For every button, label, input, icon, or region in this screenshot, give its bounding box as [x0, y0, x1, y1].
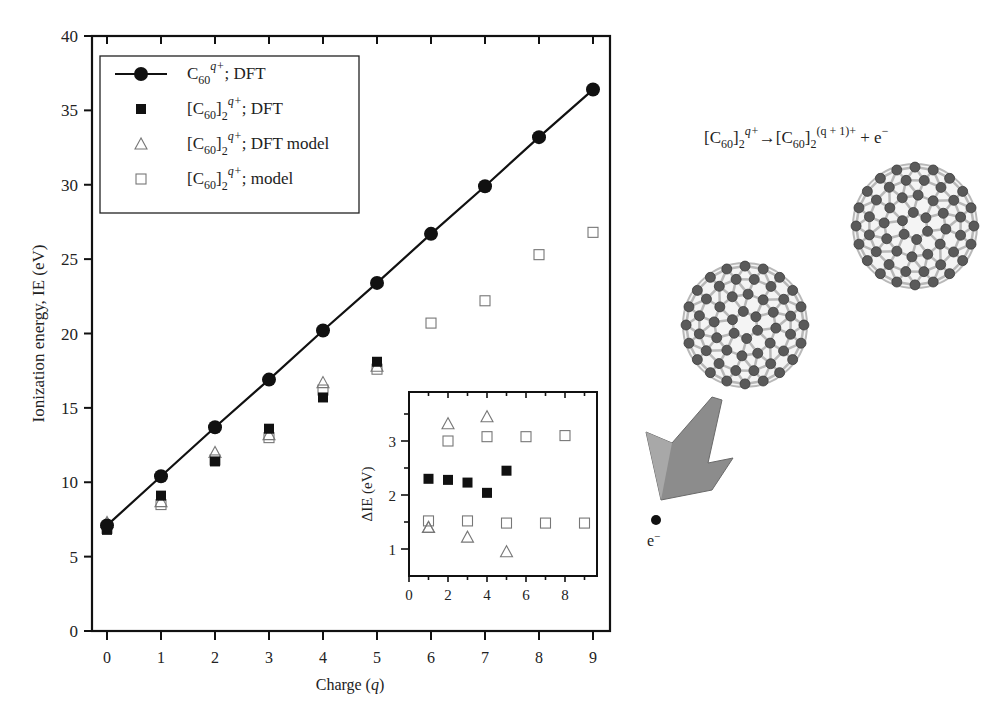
y-tick-label: 35	[61, 101, 78, 120]
carbon-atom	[921, 213, 931, 223]
carbon-atom	[854, 239, 864, 249]
x-tick-label: 0	[103, 649, 111, 666]
electron-dot	[651, 515, 661, 525]
filled-square-marker	[482, 488, 492, 498]
carbon-atom	[928, 277, 938, 287]
carbon-atom	[966, 203, 976, 213]
reaction-lhs-sub: 60	[721, 137, 733, 151]
fullerene-shell	[853, 164, 977, 288]
carbon-atom	[956, 230, 966, 240]
carbon-atom	[956, 212, 966, 222]
reaction-equation: [C60]2q+→[C60]2(q + 1)+ + e−	[704, 124, 888, 152]
carbon-atom	[899, 229, 909, 239]
filled-circle-marker	[532, 130, 546, 144]
open-square-marker	[426, 318, 436, 328]
carbon-atom	[875, 269, 885, 279]
carbon-atom	[775, 368, 785, 378]
carbon-atom	[958, 256, 968, 266]
carbon-atom	[862, 186, 872, 196]
y-tick-label: 40	[61, 27, 78, 46]
carbon-atom	[910, 280, 920, 290]
carbon-atom	[701, 294, 711, 304]
carbon-atom	[864, 230, 874, 240]
y-axis-label: Ionization energy, IE (eV)	[29, 245, 48, 423]
carbon-atom	[897, 193, 907, 203]
carbon-atom	[714, 359, 724, 369]
fullerene-lower	[681, 261, 809, 389]
filled-circle-marker	[316, 324, 330, 338]
ionization-energy-chart: 05101520253035400123456789Ionization ene…	[0, 0, 1004, 722]
inset-y-tick-label: 3	[389, 434, 397, 450]
carbon-atom	[885, 203, 895, 213]
carbon-atom	[919, 267, 929, 277]
carbon-atom	[709, 317, 719, 327]
carbon-atom	[727, 292, 737, 302]
carbon-atom	[908, 207, 918, 217]
carbon-atom	[714, 281, 724, 291]
y-tick-label: 25	[61, 250, 78, 269]
y-tick-label: 5	[70, 548, 79, 567]
arrow-icon	[646, 397, 733, 500]
carbon-atom	[715, 302, 725, 312]
filled-square-marker	[136, 104, 146, 114]
carbon-atom	[771, 323, 781, 333]
carbon-atom	[765, 338, 775, 348]
reaction-lhs-charge: q+	[745, 124, 759, 138]
series-2	[101, 360, 383, 527]
carbon-atom	[722, 376, 732, 386]
carbon-atom	[938, 208, 948, 218]
filled-circle-marker	[262, 373, 276, 387]
carbon-atom	[779, 346, 789, 356]
series-1	[102, 357, 382, 535]
carbon-atom	[936, 182, 946, 192]
x-axis-label: Charge (q)	[316, 676, 385, 694]
open-square-marker	[480, 296, 490, 306]
filled-square-marker	[318, 392, 328, 402]
carbon-atom	[694, 329, 704, 339]
carbon-atom	[901, 175, 911, 185]
filled-square-marker	[502, 466, 512, 476]
filled-circle-marker	[208, 420, 222, 434]
carbon-atom	[749, 366, 759, 376]
carbon-atom	[722, 345, 732, 355]
carbon-atom	[751, 312, 761, 322]
carbon-atom	[731, 274, 741, 284]
carbon-atom	[758, 264, 768, 274]
inset-y-tick-label: 1	[389, 542, 397, 558]
carbon-atom	[854, 203, 864, 213]
inset-y-tick-label: 2	[389, 488, 397, 504]
carbon-atom	[935, 239, 945, 249]
carbon-atom	[743, 289, 753, 299]
filled-circle-marker	[154, 469, 168, 483]
carbon-atom	[945, 269, 955, 279]
inset-frame	[409, 392, 597, 576]
carbon-atom	[862, 256, 872, 266]
reaction-lhs-sub2: 2	[739, 137, 745, 151]
inset-x-tick-label: 4	[483, 587, 491, 603]
x-tick-label: 8	[535, 649, 543, 666]
reaction-rhs-sub2: 2	[810, 137, 816, 151]
x-tick-label: 2	[211, 649, 219, 666]
x-tick-label: 7	[481, 649, 489, 666]
y-tick-label: 10	[61, 473, 78, 492]
carbon-atom	[949, 195, 959, 205]
carbon-atom	[788, 355, 798, 365]
inset-x-tick-label: 8	[561, 587, 569, 603]
carbon-atom	[913, 190, 923, 200]
carbon-atom	[766, 281, 776, 291]
reaction-electron: + e	[856, 128, 882, 147]
carbon-atom	[694, 311, 704, 321]
carbon-atom	[910, 162, 920, 172]
inset-plot: 02468123ΔIE (eV)	[359, 392, 597, 603]
carbon-atom	[879, 218, 889, 228]
carbon-atom	[727, 315, 737, 325]
carbon-atom	[766, 359, 776, 369]
carbon-atom	[936, 260, 946, 270]
carbon-atom	[692, 355, 702, 365]
x-tick-label: 3	[265, 649, 273, 666]
carbon-atom	[742, 334, 752, 344]
filled-square-marker	[372, 357, 382, 367]
carbon-atom	[731, 366, 741, 376]
carbon-atom	[738, 306, 748, 316]
fullerene-upper	[851, 162, 979, 290]
